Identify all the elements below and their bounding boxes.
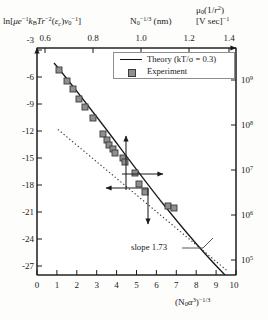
bottom-tick-8: 8	[194, 280, 199, 290]
left-tick-6: -21	[12, 207, 34, 217]
right-tick-1: 108	[241, 120, 253, 130]
data-point	[90, 115, 96, 121]
data-point	[132, 170, 138, 176]
left-tick-2: -9	[12, 99, 34, 109]
legend: Theory (kT/σ = 0.3) Experiment	[113, 52, 235, 79]
top-tick-3: 1.2	[183, 33, 194, 43]
bottom-axis-label: (N0α3)−1/3	[175, 297, 210, 307]
left-tick-1: -6	[12, 72, 34, 82]
legend-entry-experiment: Experiment	[114, 66, 234, 77]
bottom-tick-7: 7	[174, 280, 179, 290]
bottom-tick-4: 4	[114, 280, 119, 290]
left-tick-7: -24	[12, 234, 34, 244]
figure-canvas	[0, 0, 268, 320]
data-point	[142, 189, 148, 195]
top-mid-axis-label: N0−1/3 (nm)	[130, 16, 171, 26]
bottom-tick-1: 1	[55, 280, 60, 290]
left-tick-3: -12	[12, 126, 34, 136]
data-point	[70, 86, 76, 92]
top-right-axis-label: μ0(1/r2) [V sec]−1	[196, 5, 229, 26]
top-tick-1: 0.8	[87, 33, 98, 43]
data-point	[100, 131, 106, 137]
top-tick-4: 1.4	[223, 33, 234, 43]
legend-line-sample	[120, 54, 142, 65]
legend-square-sample	[120, 66, 142, 77]
legend-entry-theory: Theory (kT/σ = 0.3)	[114, 54, 234, 65]
data-point	[56, 67, 62, 73]
legend-label-experiment: Experiment	[147, 66, 187, 76]
left-tick-5: -18	[12, 180, 34, 190]
data-point	[165, 203, 171, 209]
top-tick-2: 1.0	[135, 33, 146, 43]
left-tick-4: -15	[12, 153, 34, 163]
data-point	[82, 104, 88, 110]
data-point	[171, 205, 177, 211]
right-tick-3: 106	[241, 210, 253, 220]
bottom-tick-10: 10	[230, 280, 239, 290]
bottom-tick-2: 2	[75, 280, 80, 290]
right-tick-2: 107	[241, 165, 253, 175]
data-point	[112, 150, 118, 156]
left-tick-8: -27	[12, 261, 34, 271]
bottom-tick-3: 3	[94, 280, 99, 290]
top-left-axis-label: ln[μe−1kBTr−2(εc)v0−1]	[3, 16, 81, 26]
data-point	[122, 159, 128, 165]
bottom-tick-0: 0	[35, 280, 40, 290]
data-point	[76, 96, 82, 102]
data-point	[136, 181, 142, 187]
right-tick-0: 109	[241, 75, 253, 85]
bottom-tick-9: 9	[214, 280, 219, 290]
right-tick-4: 105	[241, 255, 253, 265]
bottom-tick-6: 6	[154, 280, 159, 290]
bottom-tick-5: 5	[134, 280, 139, 290]
top-tick-0: 0.6	[39, 33, 50, 43]
left-tick-0: -3	[12, 35, 34, 45]
data-point	[64, 78, 70, 84]
legend-label-theory: Theory (kT/σ = 0.3)	[147, 54, 216, 64]
slope-annotation: slope 1.73	[131, 243, 167, 252]
